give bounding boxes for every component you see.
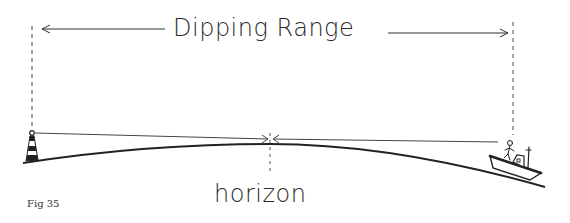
figure-label: Fig 35	[27, 198, 59, 209]
line-of-sight	[35, 133, 498, 143]
horizon-label: horizon	[214, 180, 306, 208]
lighthouse-icon	[26, 131, 38, 161]
diagram-title: Dipping Range	[173, 14, 354, 42]
